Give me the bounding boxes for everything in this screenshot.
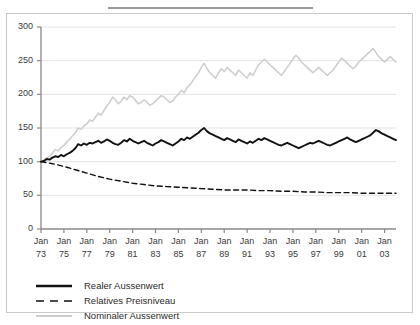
gridlines <box>41 27 396 195</box>
chart-plot-svg <box>7 14 412 312</box>
x-axis-tick-month: Jan <box>370 236 400 246</box>
legend-item: Relatives Preisniveau <box>35 293 179 308</box>
y-axis-tick-label: 150 <box>7 123 33 132</box>
legend-label: Realer Aussenwert <box>84 281 164 291</box>
y-axis-tick-label: 0 <box>7 224 33 233</box>
x-axis-tick-label: Jan03 <box>370 236 400 259</box>
y-axis-tick-label: 50 <box>7 190 33 199</box>
y-axis-tick-label: 250 <box>7 56 33 65</box>
legend-label: Relatives Preisniveau <box>84 296 175 306</box>
legend-line-swatch-dashed-black <box>35 295 73 307</box>
page-top-rule <box>108 7 313 9</box>
legend-line-swatch-solid-gray <box>35 310 73 322</box>
series-realer-aussenwert <box>41 128 396 162</box>
x-axis-tick-year: 03 <box>370 249 400 259</box>
series-relatives-preisniveau <box>41 162 396 194</box>
chart-legend: Realer Aussenwert Relatives Preisniveau … <box>35 278 179 323</box>
legend-line-swatch-solid-black <box>35 280 73 292</box>
legend-item: Realer Aussenwert <box>35 278 179 293</box>
y-axis-tick-label: 100 <box>7 157 33 166</box>
chart-figure-frame: 050100150200250300 Jan73Jan75Jan77Jan79J… <box>6 13 413 313</box>
y-axis-tick-label: 300 <box>7 22 33 31</box>
series-nominaler-aussenwert <box>41 49 396 162</box>
legend-label: Nominaler Aussenwert <box>84 311 179 321</box>
y-axis-tick-label: 200 <box>7 89 33 98</box>
legend-item: Nominaler Aussenwert <box>35 308 179 323</box>
